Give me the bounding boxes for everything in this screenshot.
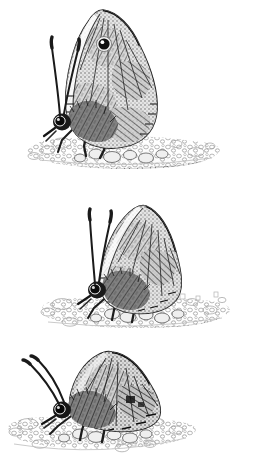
forewing-eyespot <box>97 37 112 52</box>
antennae <box>23 356 64 404</box>
illustration-plate <box>0 0 255 471</box>
figure-butterfly-middle <box>0 190 255 340</box>
figure-butterfly-upper <box>0 0 255 190</box>
figure-butterfly-lower <box>0 340 255 471</box>
head <box>44 114 71 142</box>
